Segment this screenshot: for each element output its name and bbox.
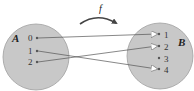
set-b-element-3: 3 bbox=[164, 54, 169, 64]
function-label: f bbox=[99, 3, 103, 14]
set-a-element-0: 0 bbox=[28, 33, 33, 43]
set-b-element-2: 2 bbox=[164, 42, 169, 52]
set-a-element-2: 2 bbox=[28, 57, 33, 67]
set-b-element-1: 1 bbox=[164, 30, 169, 40]
function-arc-arrow-icon bbox=[80, 18, 116, 24]
set-a-label: A bbox=[11, 32, 19, 44]
set-b-element-4: 4 bbox=[164, 65, 169, 75]
set-a-element-1: 1 bbox=[28, 46, 33, 56]
set-b-label: B bbox=[177, 36, 185, 48]
mapping-diagram: A 0 1 2 B 1 2 3 4 f bbox=[0, 0, 194, 91]
set-b-circle bbox=[127, 23, 193, 89]
